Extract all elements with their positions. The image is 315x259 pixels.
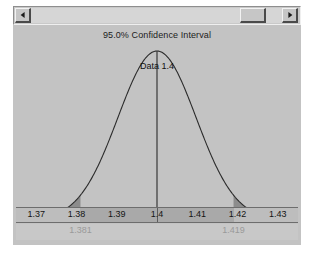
- plot-area: [16, 45, 298, 220]
- distribution-curve-svg: [16, 45, 298, 220]
- triangle-right-icon: [288, 12, 292, 18]
- ci-bound-label-row: 1.3811.419: [16, 224, 298, 240]
- scrollbar-track[interactable]: [31, 8, 282, 23]
- triangle-left-icon: [20, 12, 24, 18]
- x-axis-tick-label: 1.4: [140, 209, 174, 219]
- scrollbar-thumb[interactable]: [240, 8, 266, 23]
- horizontal-scrollbar[interactable]: [13, 6, 301, 25]
- ci-bound-label-lower: 1.381: [60, 225, 100, 235]
- x-axis-tick-label: 1.38: [59, 209, 93, 219]
- scroll-right-button[interactable]: [282, 8, 298, 23]
- x-axis-tick-label: 1.41: [180, 209, 214, 219]
- x-axis-tick-label: 1.42: [221, 209, 255, 219]
- confidence-interval-window: 95.0% Confidence Interval Data 1.4 1.371…: [13, 6, 301, 245]
- x-axis-tick-label: 1.43: [261, 209, 295, 219]
- x-axis-band: 1.371.381.391.41.411.421.43: [16, 207, 298, 223]
- x-axis-tick-label: 1.39: [100, 209, 134, 219]
- chart-panel: 95.0% Confidence Interval Data 1.4 1.371…: [13, 25, 301, 245]
- ci-bound-label-upper: 1.419: [214, 225, 254, 235]
- scroll-left-button[interactable]: [15, 8, 31, 23]
- x-axis-tick-label: 1.37: [19, 209, 53, 219]
- chart-title: 95.0% Confidence Interval: [13, 30, 301, 40]
